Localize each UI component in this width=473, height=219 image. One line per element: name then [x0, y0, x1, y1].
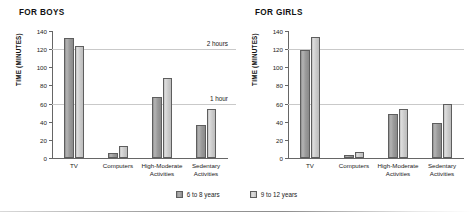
y-tick-label: 20 [0, 136, 47, 143]
y-tick-mark [285, 122, 288, 123]
y-tick-mark [49, 140, 52, 141]
legend-label: 9 to 12 years [261, 191, 297, 198]
legend-swatch-icon [176, 191, 183, 198]
y-tick-mark [49, 67, 52, 68]
bar [388, 114, 398, 158]
bar [432, 123, 442, 158]
y-tick-mark [285, 67, 288, 68]
x-tick-label: Sedentary Activities [416, 162, 468, 179]
y-tick-mark [49, 158, 52, 159]
y-tick-label: 100 [0, 64, 47, 71]
y-tick-label: 60 [107, 100, 283, 107]
y-tick-label: 120 [107, 46, 283, 53]
y-tick-mark [285, 31, 288, 32]
chart-figure: FOR BOYS TIME (MINUTES) 0204060801001201… [0, 0, 473, 219]
bar [300, 50, 310, 158]
chart-title-boys: FOR BOYS [19, 8, 65, 17]
x-axis-line [288, 158, 464, 159]
chart-title-girls: FOR GIRLS [255, 8, 303, 17]
bar [64, 38, 74, 158]
y-tick-label: 60 [0, 100, 47, 107]
y-tick-mark [49, 31, 52, 32]
bar [75, 46, 85, 158]
x-tick-label: Sedentary Activities [180, 162, 232, 179]
bar [207, 109, 217, 158]
legend-swatch-icon [250, 191, 257, 198]
y-tick-label: 20 [107, 136, 283, 143]
bar [311, 37, 321, 158]
bar [399, 109, 409, 158]
y-tick-mark [285, 158, 288, 159]
y-tick-label: 140 [0, 28, 47, 35]
y-tick-mark [285, 140, 288, 141]
y-tick-mark [49, 122, 52, 123]
bar [443, 104, 453, 158]
y-tick-mark [49, 85, 52, 86]
chart-panel-girls: FOR GIRLS TIME (MINUTES) 020406080100120… [236, 0, 472, 190]
legend-label: 6 to 8 years [187, 191, 220, 198]
plot-area-girls: 020406080100120140 TVComputersHigh-Moder… [288, 31, 464, 158]
y-tick-label: 80 [107, 82, 283, 89]
y-tick-label: 0 [0, 155, 47, 162]
y-tick-label: 80 [0, 82, 47, 89]
y-tick-label: 40 [0, 118, 47, 125]
y-tick-label: 100 [107, 64, 283, 71]
y-tick-mark [285, 85, 288, 86]
bar [355, 152, 365, 158]
bar [344, 155, 354, 158]
y-tick-label: 140 [107, 28, 283, 35]
y-tick-label: 0 [107, 155, 283, 162]
legend-item-9-to-12: 9 to 12 years [250, 191, 297, 198]
chart-legend: 6 to 8 years 9 to 12 years [0, 190, 473, 210]
footer-divider [0, 211, 473, 212]
legend-item-6-to-8: 6 to 8 years [176, 191, 220, 198]
y-tick-label: 120 [0, 46, 47, 53]
y-tick-label: 40 [107, 118, 283, 125]
